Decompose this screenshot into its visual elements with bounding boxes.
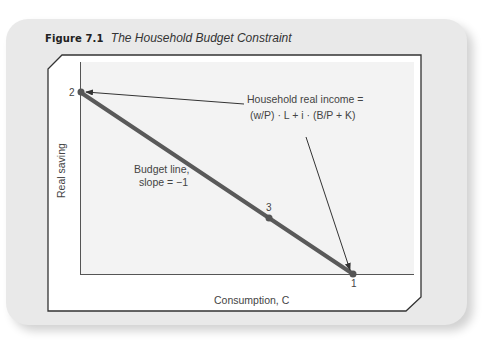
point-3 — [266, 215, 273, 222]
income-label-line2: (w/P) · L + i · (B/P + K) — [250, 109, 356, 121]
budget-constraint-chart: 2 3 1 Household real income = (w/P) · L … — [0, 0, 497, 348]
point-1-label: 1 — [351, 278, 357, 289]
point-2 — [78, 89, 85, 96]
point-2-label: 2 — [69, 87, 75, 98]
income-label-line1: Household real income = — [247, 93, 363, 105]
point-1 — [350, 271, 357, 278]
x-axis-label: Consumption, C — [214, 294, 290, 306]
y-axis-label: Real saving — [55, 143, 67, 198]
budget-line-label-line1: Budget line, — [134, 163, 189, 175]
point-3-label: 3 — [266, 202, 272, 213]
budget-line-label-line2: slope = −1 — [139, 176, 188, 188]
